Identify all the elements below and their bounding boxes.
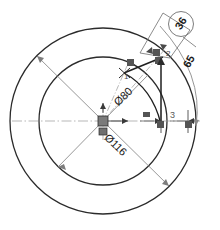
- cad-drawing-canvas[interactable]: Ø116 Ø80 36 65 3 1 2: [0, 0, 220, 230]
- point-marker-e: [185, 121, 192, 128]
- point-marker-d: [157, 121, 164, 128]
- point-2-label: 2: [166, 50, 170, 58]
- coincident-marker-a: [127, 59, 134, 66]
- linear-3-label[interactable]: 3: [170, 111, 175, 120]
- point-1-label: 1: [124, 73, 128, 81]
- coincident-marker-b: [153, 49, 160, 56]
- origin-marker[interactable]: [98, 103, 128, 135]
- sketch-svg: [0, 0, 220, 230]
- horizontal-marker: [143, 112, 150, 117]
